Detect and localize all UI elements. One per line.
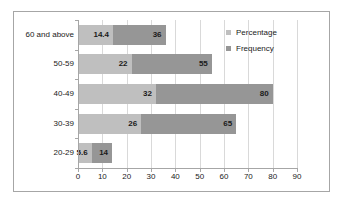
value-tick-label-50: 50 <box>188 172 212 181</box>
value-tick-label-40: 40 <box>163 172 187 181</box>
category-label: 20-29 <box>12 148 74 157</box>
legend: PercentageFrequency <box>226 28 316 60</box>
legend-entry[interactable]: Percentage <box>226 28 316 37</box>
bar-segment-percentage[interactable]: 32 <box>78 84 156 104</box>
bar-row[interactable]: 5.614 <box>78 143 297 163</box>
category-label: 40-49 <box>12 89 74 98</box>
bar-segment-percentage[interactable]: 26 <box>78 114 141 134</box>
value-tick-label-80: 80 <box>261 172 285 181</box>
bar-segment-frequency[interactable]: 14 <box>92 143 112 163</box>
value-tick-label-60: 60 <box>212 172 236 181</box>
value-tick-label-30: 30 <box>139 172 163 181</box>
bar-label-frequency: 65 <box>223 114 232 134</box>
value-axis <box>78 168 298 169</box>
legend-entry[interactable]: Frequency <box>226 44 316 53</box>
category-label: 50-59 <box>12 59 74 68</box>
category-tick <box>75 138 78 139</box>
chart-frame: 5.61426653280225514.436 20-2930-3940-495… <box>13 11 330 192</box>
category-tick <box>75 50 78 51</box>
bar-row[interactable]: 3280 <box>78 84 297 104</box>
bar-segment-frequency[interactable]: 80 <box>156 84 273 104</box>
category-tick <box>75 79 78 80</box>
bar-segment-frequency[interactable]: 65 <box>141 114 236 134</box>
category-axis <box>78 20 79 168</box>
bar-label-percentage: 14.4 <box>93 25 109 45</box>
category-label: 30-39 <box>12 119 74 128</box>
bar-row[interactable]: 2665 <box>78 114 297 134</box>
legend-label: Percentage <box>236 28 277 37</box>
legend-label: Frequency <box>236 44 274 53</box>
bar-label-frequency: 36 <box>153 25 162 45</box>
bar-segment-percentage[interactable]: 14.4 <box>78 25 113 45</box>
bar-segment-frequency[interactable]: 36 <box>113 25 166 45</box>
category-tick <box>75 20 78 21</box>
bar-segment-frequency[interactable]: 55 <box>132 54 212 74</box>
value-tick-label-0: 0 <box>66 172 90 181</box>
value-tick-label-20: 20 <box>115 172 139 181</box>
value-tick-label-10: 10 <box>90 172 114 181</box>
bar-label-frequency: 55 <box>199 54 208 74</box>
bar-segment-percentage[interactable]: 5.6 <box>78 143 92 163</box>
value-tick-label-90: 90 <box>285 172 309 181</box>
bar-segment-percentage[interactable]: 22 <box>78 54 132 74</box>
category-axis-labels: 20-2930-3940-4950-5960 and above <box>14 20 74 168</box>
legend-swatch-icon <box>226 30 231 35</box>
bar-label-frequency: 80 <box>260 84 269 104</box>
value-axis-labels: 0102030405060708090 <box>78 172 298 186</box>
legend-swatch-icon <box>226 46 231 51</box>
bar-label-frequency: 14 <box>99 143 108 163</box>
category-tick <box>75 109 78 110</box>
bar-label-percentage: 32 <box>143 84 152 104</box>
bar-label-percentage: 22 <box>119 54 128 74</box>
category-label: 60 and above <box>12 30 74 39</box>
bar-label-percentage: 26 <box>128 114 137 134</box>
value-tick-label-70: 70 <box>236 172 260 181</box>
